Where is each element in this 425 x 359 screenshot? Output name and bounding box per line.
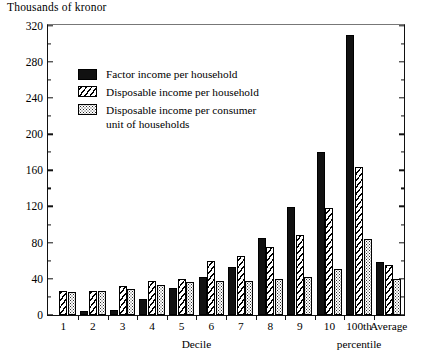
bar	[98, 291, 106, 315]
bar	[89, 291, 97, 315]
y-tick-major-right	[399, 97, 405, 98]
bar-group	[51, 26, 76, 315]
bar	[296, 235, 304, 315]
bar	[393, 279, 401, 315]
x-tick	[167, 316, 168, 320]
legend-label-disposable-consumer-unit-line1: Disposable income per consumer	[106, 103, 256, 117]
x-axis-label: Decile	[182, 338, 211, 350]
bar	[346, 35, 354, 315]
bar	[127, 289, 135, 315]
bar	[317, 152, 325, 315]
y-tick-major-right	[399, 242, 405, 243]
y-tick-minor	[47, 260, 51, 261]
bar	[157, 285, 165, 315]
x-tick	[256, 316, 257, 320]
y-tick-major	[47, 25, 53, 26]
x-axis-tick-labels: 12345678910100thpercentileAverage	[49, 320, 404, 338]
y-tick-major-right	[399, 170, 405, 171]
bar	[287, 207, 295, 315]
bar	[169, 288, 177, 315]
bar	[216, 281, 224, 315]
bar-group	[287, 26, 312, 315]
y-tick-minor-right	[401, 79, 405, 80]
y-tick-major	[47, 206, 53, 207]
x-tick-label: 2	[90, 320, 96, 332]
bar-group	[346, 26, 371, 315]
bar	[119, 286, 127, 315]
y-tick-label: 120	[26, 200, 43, 212]
x-tick	[137, 316, 138, 320]
bar	[355, 167, 363, 315]
bar	[275, 279, 283, 315]
x-tick-label: 5	[179, 320, 185, 332]
bar	[237, 256, 245, 315]
x-tick	[196, 316, 197, 320]
y-tick-major	[47, 242, 53, 243]
x-tick	[78, 316, 79, 320]
bar	[80, 311, 88, 315]
y-tick-major-right	[399, 133, 405, 134]
x-tick	[344, 316, 345, 320]
legend-swatch-solid-icon	[78, 69, 97, 80]
bar	[186, 282, 194, 315]
bar	[178, 279, 186, 315]
y-tick-major-right	[399, 314, 405, 315]
bar	[385, 265, 393, 315]
x-tick-label: 100th	[346, 320, 372, 332]
y-tick-minor	[47, 188, 51, 189]
y-tick-minor-right	[401, 260, 405, 261]
bar-group	[258, 26, 283, 315]
bar	[325, 208, 333, 315]
bar-group	[317, 26, 342, 315]
y-tick-minor-right	[401, 296, 405, 297]
bar	[334, 269, 342, 315]
bar	[258, 238, 266, 315]
bar	[364, 239, 372, 315]
y-tick-major	[47, 170, 53, 171]
y-tick-label: 160	[26, 164, 43, 176]
bar	[207, 261, 215, 315]
y-tick-major-right	[399, 25, 405, 26]
y-tick-minor-right	[401, 188, 405, 189]
y-tick-major-right	[399, 206, 405, 207]
y-tick-minor	[47, 43, 51, 44]
x-tick-label: 7	[238, 320, 244, 332]
x-tick	[374, 316, 375, 320]
bar	[139, 299, 147, 315]
x-tick-label: 9	[297, 320, 303, 332]
y-tick-major	[47, 314, 53, 315]
bar	[199, 277, 207, 315]
y-tick-label: 320	[26, 20, 43, 32]
legend-label-disposable-consumer-unit-line2: unit of households	[106, 117, 189, 131]
y-tick-label: 40	[32, 273, 44, 285]
bar	[304, 277, 312, 315]
chart-root: Thousands of kronor 04080120160200240280…	[0, 0, 425, 359]
y-tick-minor-right	[401, 152, 405, 153]
legend-label-factor-income: Factor income per household	[106, 67, 237, 81]
y-tick-minor	[47, 152, 51, 153]
y-tick-major	[47, 278, 53, 279]
x-tick-label: 1	[61, 320, 67, 332]
x-tick-label: 8	[268, 320, 274, 332]
bar	[228, 267, 236, 315]
bar	[148, 281, 156, 315]
x-tick-label: 4	[149, 320, 155, 332]
bar	[68, 292, 76, 315]
x-tick	[315, 316, 316, 320]
x-tick	[226, 316, 227, 320]
bar-group	[376, 26, 401, 315]
y-tick-major	[47, 61, 53, 62]
x-tick-label: 10	[324, 320, 335, 332]
y-tick-label: 80	[32, 237, 44, 249]
y-tick-major	[47, 133, 53, 134]
y-tick-minor-right	[401, 224, 405, 225]
legend-swatch-dots-icon	[78, 104, 97, 115]
y-tick-major-right	[399, 61, 405, 62]
y-tick-minor	[47, 79, 51, 80]
y-tick-major-right	[399, 278, 405, 279]
bar	[376, 262, 384, 315]
y-tick-minor	[47, 224, 51, 225]
y-tick-minor-right	[401, 115, 405, 116]
bar	[110, 310, 118, 315]
x-tick	[108, 316, 109, 320]
